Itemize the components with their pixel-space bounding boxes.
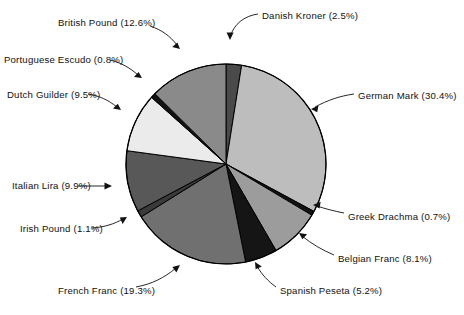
pie-label-spanish-peseta: Spanish Peseta (5.2%) (280, 285, 382, 296)
leader-line-german-mark (315, 94, 354, 107)
pie-chart-figure: Danish Kroner (2.5%) German Mark (30.4%)… (0, 0, 464, 315)
leader-line-spanish-peseta (257, 266, 276, 287)
pie-label-greek-drachma: Greek Drachma (0.7%) (348, 211, 450, 222)
pie-label-portuguese-escudo: Portuguese Escudo (0.8%) (4, 54, 123, 65)
pie-label-german-mark: German Mark (30.4%) (358, 90, 457, 101)
leader-line-belgian-franc (302, 236, 334, 255)
leader-arrow-french-franc (172, 265, 180, 273)
pie-label-belgian-franc: Belgian Franc (8.1%) (338, 253, 432, 264)
pie-slice-group (126, 64, 326, 264)
leader-arrow-german-mark (311, 105, 319, 112)
leader-arrow-danish-kroner (227, 33, 234, 41)
leader-line-danish-kroner (230, 14, 258, 37)
pie-chart-svg (0, 0, 464, 315)
pie-label-dutch-guilder: Dutch Guilder (9.5%) (7, 89, 100, 100)
leader-line-greek-drachma (317, 206, 344, 213)
pie-label-danish-kroner: Danish Kroner (2.5%) (262, 10, 358, 21)
pie-label-italian-lira: Italian Lira (9.9%) (12, 180, 91, 191)
pie-label-french-franc: French Franc (19.3%) (58, 285, 155, 296)
pie-label-british-pound: British Pound (12.6%) (58, 17, 155, 28)
leader-line-british-pound (150, 26, 177, 45)
pie-label-irish-pound: Irish Pound (1.1%) (20, 223, 103, 234)
leader-arrow-belgian-franc (299, 233, 307, 239)
leader-arrow-italian-lira (105, 183, 113, 190)
